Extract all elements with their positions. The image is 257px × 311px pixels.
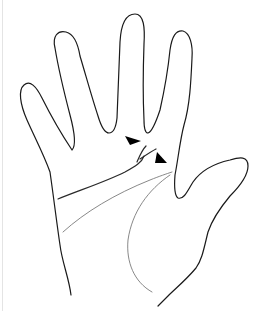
hand-diagram: Palm of right hand line drawing with arr…: [0, 0, 257, 311]
proximal-transverse-crease: [63, 172, 172, 232]
hand-drawing: [0, 0, 257, 311]
arrowhead-lower-icon: [155, 152, 167, 163]
thenar-crease: [128, 175, 170, 292]
arrowhead-upper-icon: [125, 136, 141, 145]
hand-outline: [20, 14, 248, 306]
distal-transverse-crease: [58, 156, 144, 199]
